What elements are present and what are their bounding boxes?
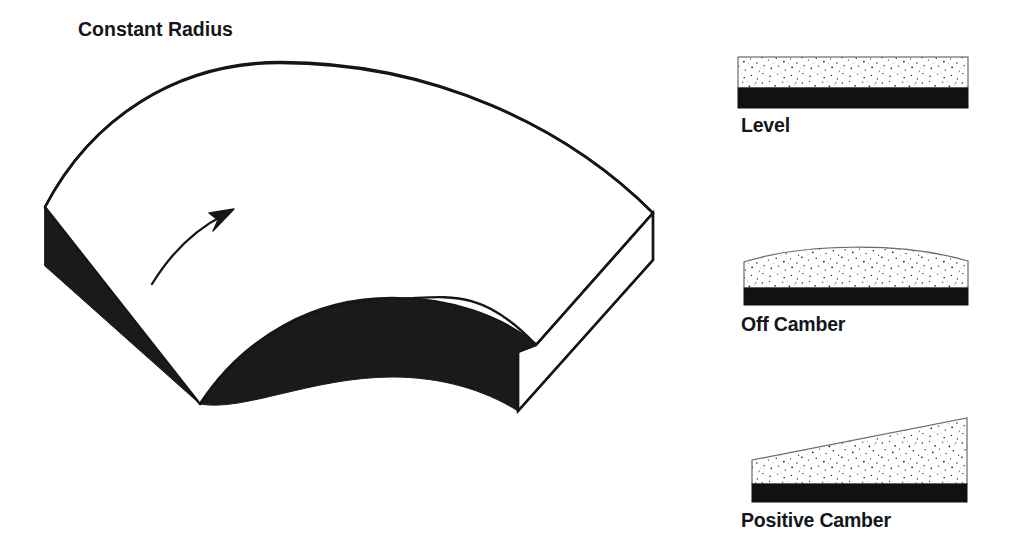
off-camber-base-layer xyxy=(744,288,968,305)
page-title: Constant Radius xyxy=(78,18,233,41)
cross-section-off-camber xyxy=(744,247,968,305)
figure-root: Constant Radius Level Off Camber Positiv… xyxy=(0,0,1011,543)
positive-camber-base-layer xyxy=(752,484,967,502)
cross-section-level xyxy=(738,57,968,108)
positive-camber-surface-layer xyxy=(752,418,967,484)
off-camber-surface-layer xyxy=(744,247,968,288)
constant-radius-diagram xyxy=(0,0,1011,543)
cross-section-label-off-camber: Off Camber xyxy=(741,313,845,336)
level-surface-layer xyxy=(738,57,968,88)
cross-section-label-positive-camber: Positive Camber xyxy=(741,509,891,532)
cross-section-label-level: Level xyxy=(741,114,790,137)
level-base-layer xyxy=(738,88,968,108)
cross-section-positive-camber xyxy=(752,418,967,502)
